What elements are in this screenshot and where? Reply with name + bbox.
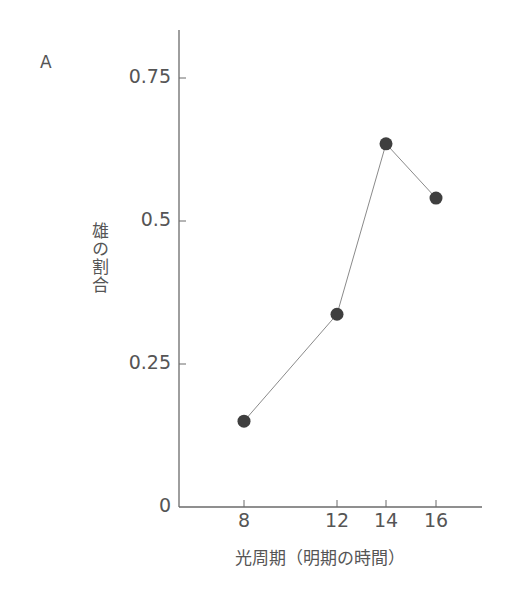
data-point bbox=[430, 192, 443, 205]
y-tick-label: 0.75 bbox=[111, 65, 171, 87]
y-tick-label: 0.5 bbox=[111, 208, 171, 230]
x-tick-label: 12 bbox=[317, 509, 357, 531]
series-line bbox=[244, 144, 436, 421]
y-ticks bbox=[179, 78, 186, 364]
x-tick-label: 14 bbox=[366, 509, 406, 531]
x-tick-label: 8 bbox=[224, 509, 264, 531]
y-tick-label: 0 bbox=[111, 494, 171, 516]
data-point bbox=[380, 137, 393, 150]
x-tick-label: 16 bbox=[416, 509, 456, 531]
x-ticks bbox=[244, 500, 436, 507]
y-axis-label: 雄の割合 bbox=[90, 222, 112, 294]
data-point bbox=[238, 415, 251, 428]
y-tick-label: 0.25 bbox=[111, 351, 171, 373]
chart-plot-area bbox=[0, 0, 514, 592]
data-point bbox=[331, 308, 344, 321]
x-axis-label: 光周期（明期の時間） bbox=[235, 544, 405, 569]
data-markers bbox=[238, 137, 443, 427]
